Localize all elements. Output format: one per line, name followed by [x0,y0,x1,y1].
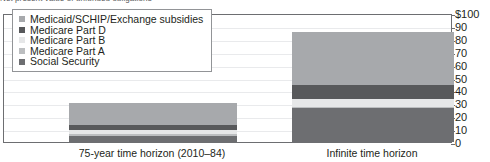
bar-segment[interactable] [292,32,454,85]
legend-item-label: Medicaid/SCHIP/Exchange subsidies [30,14,203,25]
y-axis-labels: $1009080706050403020100 [455,6,490,156]
legend-item-label: Social Security [30,56,99,67]
y-axis-label: 50 [455,74,467,85]
y-axis-label: 80 [455,35,467,46]
x-axis-label-1: Infinite time horizon [291,147,453,159]
legend-swatch-icon [19,48,25,54]
bar-1[interactable] [292,32,454,142]
bar-segment[interactable] [69,136,237,142]
bar-segment[interactable] [292,99,454,107]
chart-root: Net present value of unfunded obligation… [0,0,490,162]
bar-segment[interactable] [292,85,454,99]
chart-legend: Medicaid/SCHIP/Exchange subsidiesMedicar… [12,9,212,72]
y-axis-label: 20 [455,112,467,123]
x-axis-label-0: 75-year time horizon (2010–84) [68,147,236,159]
legend-item-medicaid[interactable]: Medicaid/SCHIP/Exchange subsidies [19,14,203,25]
y-axis-label: 60 [455,61,467,72]
chart-caption: Net present value of unfunded obligation… [0,0,452,4]
legend-swatch-icon [19,59,25,65]
y-axis-label: 70 [455,48,467,59]
y-axis-label: $100 [455,9,479,20]
y-axis-label: 40 [455,86,467,97]
bar-0[interactable] [69,103,237,142]
bar-segment[interactable] [292,108,454,142]
y-axis-label: 30 [455,99,467,110]
legend-swatch-icon [19,37,25,43]
legend-swatch-icon [19,16,25,22]
legend-swatch-icon [19,27,25,33]
y-axis-label: 0 [455,138,461,149]
legend-item-social_security[interactable]: Social Security [19,56,203,67]
y-axis-label: 90 [455,22,467,33]
bar-segment[interactable] [69,103,237,125]
y-axis-label: 10 [455,125,467,136]
